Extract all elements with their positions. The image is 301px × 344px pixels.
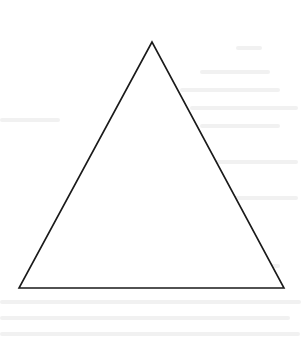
triangle-shape <box>19 42 284 288</box>
triangle-diagram <box>0 0 301 344</box>
